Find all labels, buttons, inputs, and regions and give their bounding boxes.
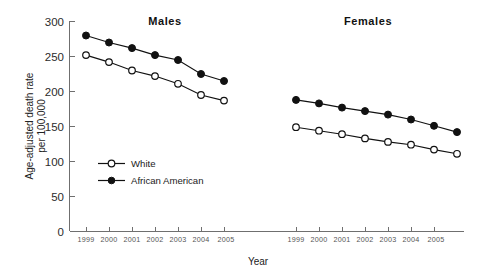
males-series-group: [83, 32, 228, 104]
data-point-males-african-american-2001[interactable]: [129, 45, 136, 52]
y-axis-title: Age-adjusted death rate per 100,000: [24, 72, 47, 179]
y-tick-label-200: 200: [45, 86, 64, 98]
data-point-males-white-2003[interactable]: [175, 81, 182, 88]
legend-label-african-american: African American: [131, 175, 204, 186]
x-tick-label-females-2005: 2005: [428, 235, 445, 244]
y-tick-label-50: 50: [51, 191, 64, 203]
data-point-females-white-2005[interactable]: [431, 146, 438, 153]
data-point-females-white-2000[interactable]: [316, 127, 323, 134]
data-point-females-african-american-7[interactable]: [454, 129, 461, 136]
data-point-females-african-american-2005[interactable]: [431, 122, 438, 129]
x-tick-label-males-2001: 2001: [124, 235, 141, 244]
legend-marker-filled-circle-icon: [108, 177, 115, 184]
x-tick-label-males-2000: 2000: [101, 235, 118, 244]
x-tick-label-females-2002: 2002: [357, 235, 374, 244]
data-point-females-white-7[interactable]: [454, 151, 461, 158]
y-axis-title-line1: Age-adjusted death rate: [24, 72, 35, 179]
y-tick-label-0: 0: [58, 226, 64, 238]
x-tick-label-females-2004: 2004: [403, 235, 420, 244]
data-point-females-african-american-2000[interactable]: [316, 100, 323, 107]
data-point-females-african-american-2004[interactable]: [408, 116, 415, 123]
data-point-males-white-2005[interactable]: [221, 97, 228, 104]
chart-figure: 300 250 200 150 100 50 0 Age-adjusted de…: [0, 0, 486, 277]
chart-legend: White African American: [98, 158, 204, 186]
legend-label-white: White: [131, 158, 156, 169]
y-tick-label-150: 150: [45, 121, 64, 133]
x-tick-label-females-2003: 2003: [380, 235, 397, 244]
data-point-males-white-2004[interactable]: [198, 92, 205, 99]
chart-canvas: 300 250 200 150 100 50 0 Age-adjusted de…: [0, 0, 486, 277]
x-tick-label-males-2004: 2004: [193, 235, 210, 244]
y-tick-label-250: 250: [45, 51, 64, 63]
x-tick-label-males-2003: 2003: [170, 235, 187, 244]
y-axis: 300 250 200 150 100 50 0: [45, 16, 75, 238]
data-point-males-african-american-1999[interactable]: [83, 32, 90, 39]
males-panel-title: Males: [148, 15, 182, 27]
females-series-group: [293, 96, 461, 157]
data-point-males-white-2002[interactable]: [152, 73, 159, 80]
females-panel-title: Females: [344, 15, 392, 27]
x-tick-label-males-1999: 1999: [78, 235, 95, 244]
y-tick-label-300: 300: [45, 16, 64, 28]
data-point-females-african-american-2002[interactable]: [362, 108, 369, 115]
data-point-females-white-2001[interactable]: [339, 131, 346, 138]
data-point-males-african-american-2002[interactable]: [152, 52, 159, 59]
data-point-males-white-2000[interactable]: [106, 59, 113, 66]
x-axis-title: Year: [248, 256, 269, 267]
legend-item-white[interactable]: White: [98, 158, 156, 169]
data-point-males-african-american-2005[interactable]: [221, 78, 228, 85]
data-point-females-african-american-1999[interactable]: [293, 96, 300, 103]
data-point-males-african-american-2000[interactable]: [106, 39, 113, 46]
data-point-males-african-american-2003[interactable]: [175, 57, 182, 64]
data-point-males-african-american-2004[interactable]: [198, 71, 205, 78]
legend-item-african-american[interactable]: African American: [98, 175, 204, 186]
data-point-males-white-1999[interactable]: [83, 52, 90, 59]
x-axis: 1999 2000 2001 2002 2003 2004 2005 1999 …: [70, 227, 465, 245]
y-tick-label-100: 100: [45, 156, 64, 168]
data-point-females-white-2004[interactable]: [408, 141, 415, 148]
x-tick-label-males-2002: 2002: [147, 235, 164, 244]
x-tick-label-females-2001: 2001: [334, 235, 351, 244]
data-point-females-white-1999[interactable]: [293, 124, 300, 131]
data-point-females-african-american-2001[interactable]: [339, 104, 346, 111]
legend-marker-open-circle-icon: [108, 160, 115, 167]
x-tick-label-males-2005: 2005: [218, 235, 235, 244]
data-point-females-white-2002[interactable]: [362, 135, 369, 142]
x-tick-label-females-1999: 1999: [288, 235, 305, 244]
data-point-males-white-2001[interactable]: [129, 67, 136, 74]
data-point-females-african-american-2003[interactable]: [385, 111, 392, 118]
y-axis-title-line2: per 100,000: [36, 99, 47, 153]
data-point-females-white-2003[interactable]: [385, 139, 392, 146]
x-tick-label-females-2000: 2000: [311, 235, 328, 244]
